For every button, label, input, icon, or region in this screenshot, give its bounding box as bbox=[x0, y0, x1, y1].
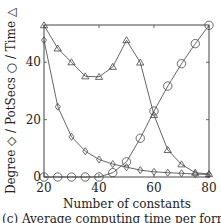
y-tick-20: 20 bbox=[26, 113, 41, 127]
x-tick-80: 80 bbox=[201, 181, 216, 195]
chart: 20 40 60 80 0 20 40 Number of constants … bbox=[0, 0, 221, 223]
y-tick-0: 0 bbox=[33, 170, 41, 184]
y-tick-40: 40 bbox=[26, 55, 41, 69]
x-axis-label: Number of constants bbox=[63, 197, 191, 211]
plot-frame bbox=[44, 25, 209, 177]
y-axis-label: Degree ◇ / PotSecs ○ / Time △ bbox=[4, 7, 18, 194]
axis-ticks bbox=[44, 25, 209, 177]
figure-caption: (c) Average computing time per formula bbox=[2, 212, 221, 223]
series-markers bbox=[40, 21, 213, 181]
series-line-potsecs bbox=[44, 25, 209, 177]
x-tick-60: 60 bbox=[146, 181, 161, 195]
x-tick-40: 40 bbox=[91, 181, 106, 195]
series-lines bbox=[44, 25, 209, 177]
series-line-time bbox=[44, 25, 209, 174]
